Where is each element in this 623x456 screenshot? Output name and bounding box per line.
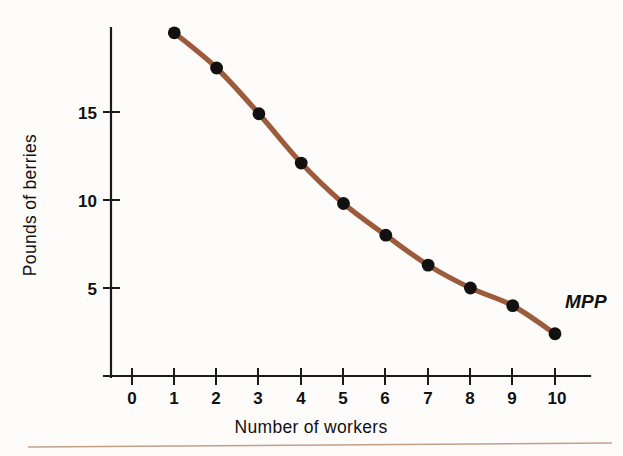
x-tick-label-9: 9	[507, 389, 516, 408]
mpp-line-chart: 15 10 5 0 1 2 3 4 5 6 7 8	[0, 0, 623, 456]
x-tick-label-0: 0	[127, 389, 136, 408]
x-tick-label-6: 6	[380, 389, 389, 408]
x-tick-label-1: 1	[169, 389, 178, 408]
data-point	[464, 282, 477, 295]
x-tick-label-2: 2	[211, 389, 220, 408]
mpp-series-label: MPP	[565, 291, 607, 312]
x-axis-tick-labels: 0 1 2 3 4 5 6 7 8 9 10	[127, 389, 566, 408]
x-tick-label-8: 8	[465, 389, 474, 408]
data-point	[422, 259, 435, 272]
data-point	[506, 299, 519, 312]
mpp-data-points	[168, 26, 561, 340]
x-tick-label-10: 10	[548, 389, 567, 408]
data-point	[549, 327, 562, 340]
data-point	[210, 62, 223, 75]
data-point	[168, 26, 181, 39]
data-point	[337, 197, 350, 210]
x-tick-label-7: 7	[423, 389, 432, 408]
data-point	[379, 229, 392, 242]
x-tick-label-5: 5	[338, 389, 347, 408]
bottom-divider-rule	[28, 443, 612, 447]
y-axis-tick-labels: 15 10 5	[78, 104, 97, 299]
x-axis-title: Number of workers	[235, 417, 388, 437]
data-point	[295, 157, 308, 170]
data-point	[253, 107, 266, 120]
chart-figure: 15 10 5 0 1 2 3 4 5 6 7 8	[0, 0, 623, 456]
y-axis-title: Pounds of berries	[20, 134, 40, 276]
y-tick-label-10: 10	[78, 192, 97, 211]
y-tick-label-15: 15	[78, 104, 97, 123]
mpp-curve	[174, 33, 555, 334]
x-tick-label-3: 3	[253, 389, 262, 408]
x-tick-label-4: 4	[296, 389, 306, 408]
y-tick-label-5: 5	[88, 280, 97, 299]
